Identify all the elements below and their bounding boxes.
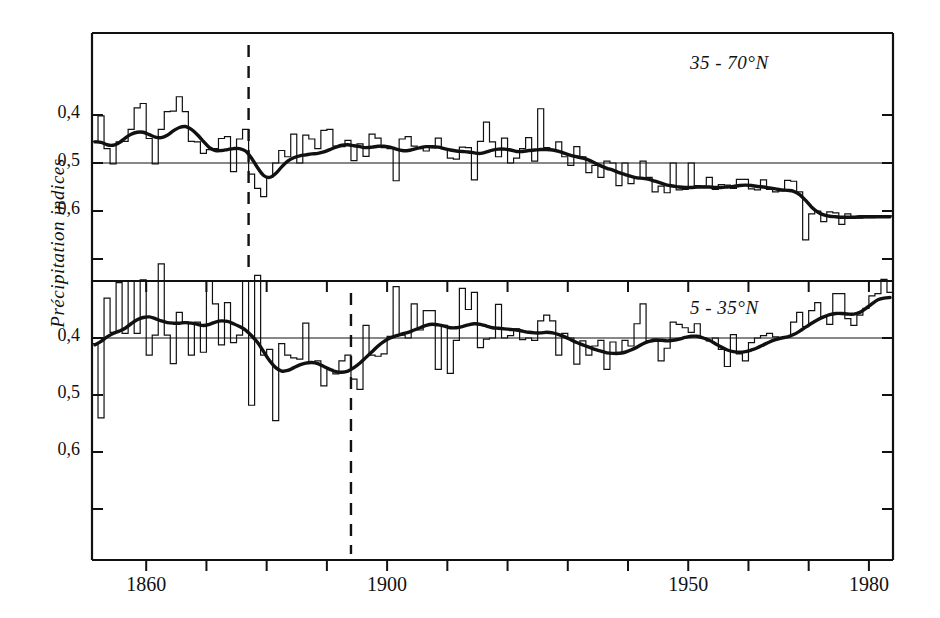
data-series (92, 97, 893, 421)
x-tick-label-1980: 1980 (824, 573, 914, 596)
x-tick-label-1900: 1900 (342, 573, 432, 596)
axis-ticks (92, 115, 893, 571)
chart-canvas (0, 0, 940, 618)
series-smoothed-curve (95, 126, 890, 217)
y-tick-label: 0,6 (36, 198, 80, 219)
y-tick-label: 0,4 (36, 102, 80, 123)
y-tick-label: 0,5 (36, 150, 80, 171)
y-tick-label: 0,4 (36, 325, 80, 346)
x-tick-label-1950: 1950 (643, 573, 733, 596)
event-marker-lines (249, 45, 351, 554)
series-step-histogram (92, 97, 893, 240)
figure-container: Précipitation indices 35 - 70°N 5 - 35°N… (0, 0, 940, 618)
y-tick-label: 0,5 (36, 382, 80, 403)
series-smoothed-curve (95, 298, 890, 373)
y-tick-label: 0,6 (36, 439, 80, 460)
x-tick-label-1860: 1860 (101, 573, 191, 596)
